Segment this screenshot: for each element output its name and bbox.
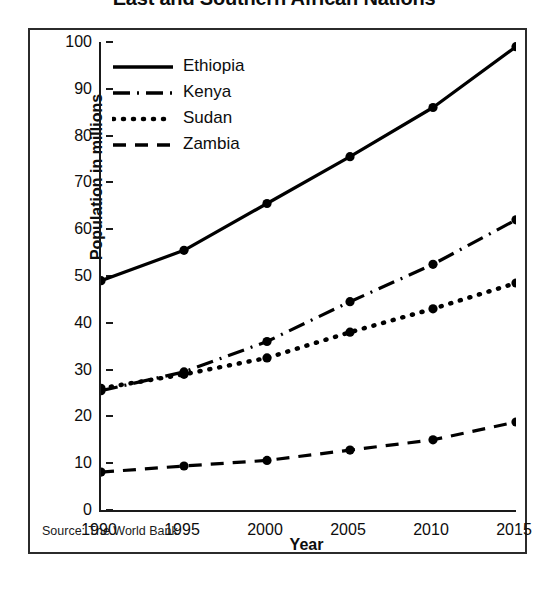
data-point-marker (345, 152, 354, 161)
data-point-marker (101, 276, 106, 285)
legend-line-swatch (112, 111, 174, 123)
data-point-marker (179, 370, 188, 379)
legend-label: Sudan (183, 109, 232, 126)
legend-item-ethiopia: Ethiopia (112, 52, 302, 78)
legend-label: Zambia (183, 135, 240, 152)
source-note: Source: The World Bank (42, 524, 178, 538)
data-point-marker (262, 199, 271, 208)
data-point-marker (179, 246, 188, 255)
legend-item-sudan: Sudan (112, 104, 302, 130)
y-axis-tick-label: 80 (52, 128, 92, 144)
series-line (101, 220, 516, 391)
y-axis-tick-group: 0102030405060708090100 (44, 42, 92, 510)
y-axis-tick-label: 0 (52, 502, 92, 518)
data-point-marker (262, 456, 271, 465)
data-point-marker (345, 297, 354, 306)
data-point-marker (262, 337, 271, 346)
chart-figure-frame: Population in millions 01020304050607080… (28, 28, 527, 554)
x-axis-title: Year (99, 536, 514, 554)
y-axis-tick-label: 60 (52, 221, 92, 237)
legend-line-swatch (112, 85, 174, 97)
y-axis-tick-label: 40 (52, 315, 92, 331)
data-point-marker (179, 461, 188, 470)
data-point-marker (262, 353, 271, 362)
data-point-marker (511, 417, 516, 426)
y-axis-tick-label: 20 (52, 408, 92, 424)
data-point-marker (428, 103, 437, 112)
y-axis-tick-label: 50 (52, 268, 92, 284)
data-point-marker (428, 260, 437, 269)
data-point-marker (345, 446, 354, 455)
series-kenya (101, 215, 516, 395)
y-axis-tick-label: 70 (52, 174, 92, 190)
series-line (101, 422, 516, 472)
legend-label: Kenya (183, 83, 231, 100)
y-axis-tick-label: 100 (52, 34, 92, 50)
series-line (101, 283, 516, 388)
chart-title: East and Southern African Nations (0, 0, 548, 10)
y-axis-tick-label: 90 (52, 81, 92, 97)
series-zambia (101, 417, 516, 476)
data-point-marker (101, 468, 106, 477)
chart-legend: EthiopiaKenyaSudanZambia (112, 52, 302, 156)
y-axis-tick-label: 10 (52, 455, 92, 471)
legend-label: Ethiopia (183, 57, 244, 74)
legend-item-zambia: Zambia (112, 130, 302, 156)
series-sudan (101, 278, 516, 393)
legend-line-swatch (112, 59, 174, 71)
data-point-marker (511, 278, 516, 287)
data-point-marker (428, 435, 437, 444)
legend-line-swatch (112, 137, 174, 149)
data-point-marker (428, 304, 437, 313)
y-axis-tick-label: 30 (52, 362, 92, 378)
data-point-marker (345, 328, 354, 337)
legend-item-kenya: Kenya (112, 78, 302, 104)
